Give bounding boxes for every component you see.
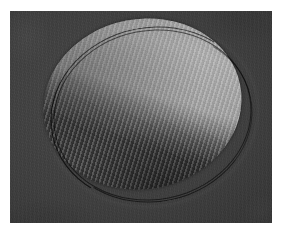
figure-container xyxy=(0,0,282,236)
scale-bar-label xyxy=(0,0,1,1)
figure-caption xyxy=(0,0,1,1)
micrograph-plate xyxy=(10,11,272,223)
